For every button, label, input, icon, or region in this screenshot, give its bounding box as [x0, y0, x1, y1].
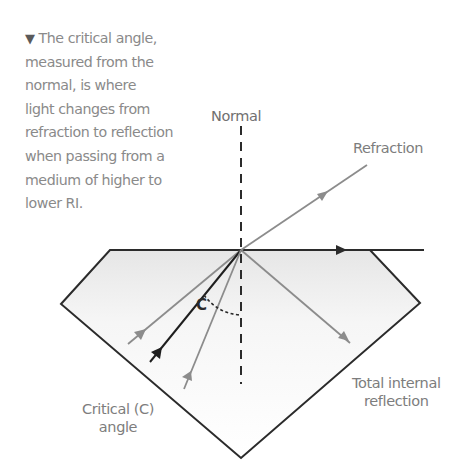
normal-label: Normal — [211, 107, 261, 125]
refraction-ray — [241, 165, 367, 250]
refraction-label: Refraction — [353, 139, 423, 157]
total-internal-reflection-label: Total internal reflection — [352, 374, 441, 410]
critical-angle-label: Critical (C) angle — [82, 400, 154, 436]
angle-c-label: C — [196, 296, 207, 314]
refraction-arrowhead-icon — [317, 191, 328, 201]
